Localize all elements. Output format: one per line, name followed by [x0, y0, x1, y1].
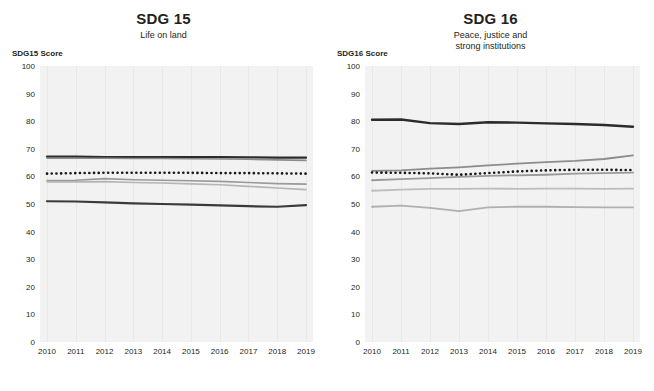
- data-series-line: [372, 120, 633, 127]
- x-axis-tick: 2012: [96, 347, 114, 356]
- x-axis-tick: 2010: [363, 347, 381, 356]
- plot-area-sdg16: 0102030405060708090100201020112012201320…: [365, 66, 640, 342]
- figure-root: SDG 15 Life on land SDG15 Score 01020304…: [0, 0, 654, 391]
- x-axis-tick: 2018: [595, 347, 613, 356]
- x-axis-tick: 2012: [421, 347, 439, 356]
- y-axis-tick: 70: [26, 144, 35, 153]
- y-axis-tick: 50: [351, 200, 360, 209]
- chart-title-sdg15: SDG 15: [0, 10, 327, 27]
- x-axis-tick: 2017: [240, 347, 258, 356]
- x-axis-tick: 2014: [153, 347, 171, 356]
- series-layer: [40, 66, 313, 342]
- y-axis-tick: 90: [26, 89, 35, 98]
- x-axis-tick: 2015: [508, 347, 526, 356]
- y-axis-label-sdg16: SDG16 Score: [337, 49, 388, 58]
- data-series-line: [372, 206, 633, 212]
- x-axis-tick: 2010: [38, 347, 56, 356]
- chart-panel-sdg16: SDG 16 Peace, justice andstrong institut…: [327, 0, 654, 391]
- y-axis-tick: 70: [351, 144, 360, 153]
- y-axis-tick: 90: [351, 89, 360, 98]
- x-axis-tick: 2011: [67, 347, 84, 356]
- x-axis-tick: 2011: [392, 347, 409, 356]
- x-axis-tick: 2015: [182, 347, 200, 356]
- data-series-line: [372, 189, 633, 191]
- y-axis-tick: 20: [26, 282, 35, 291]
- y-axis-tick: 20: [351, 282, 360, 291]
- x-axis-tick: 2014: [479, 347, 497, 356]
- y-axis-tick: 10: [26, 310, 35, 319]
- x-axis-tick: 2018: [268, 347, 286, 356]
- x-axis-tick: 2017: [566, 347, 584, 356]
- y-axis-tick: 40: [26, 227, 35, 236]
- y-axis-tick: 100: [347, 62, 360, 71]
- y-axis-tick: 60: [351, 172, 360, 181]
- series-layer: [365, 66, 640, 342]
- chart-subtitle-sdg15: Life on land: [0, 30, 327, 41]
- y-axis-tick: 80: [26, 117, 35, 126]
- x-axis-tick: 2013: [124, 347, 142, 356]
- y-axis-tick: 40: [351, 227, 360, 236]
- x-axis-tick: 2016: [211, 347, 229, 356]
- y-axis-tick: 60: [26, 172, 35, 181]
- y-axis-tick: 80: [351, 117, 360, 126]
- y-axis-tick: 50: [26, 200, 35, 209]
- y-axis-tick: 30: [26, 255, 35, 264]
- data-series-line: [372, 173, 633, 181]
- data-series-line: [372, 155, 633, 170]
- y-axis-tick: 100: [22, 62, 35, 71]
- x-axis-tick: 2019: [297, 347, 315, 356]
- y-axis-tick: 30: [351, 255, 360, 264]
- chart-title-sdg16: SDG 16: [327, 10, 654, 27]
- chart-panel-sdg15: SDG 15 Life on land SDG15 Score 01020304…: [0, 0, 327, 391]
- plot-area-sdg15: 0102030405060708090100201020112012201320…: [40, 66, 313, 342]
- data-series-line: [47, 173, 306, 174]
- y-axis-tick: 10: [351, 310, 360, 319]
- y-axis-label-sdg15: SDG15 Score: [12, 49, 63, 58]
- data-series-line: [47, 201, 306, 207]
- x-axis-tick: 2016: [537, 347, 555, 356]
- y-axis-tick: 0: [31, 338, 35, 347]
- x-axis-tick: 2019: [624, 347, 642, 356]
- x-axis-tick: 2013: [450, 347, 468, 356]
- chart-subtitle-line: Peace, justice and: [327, 30, 654, 41]
- y-axis-tick: 0: [356, 338, 360, 347]
